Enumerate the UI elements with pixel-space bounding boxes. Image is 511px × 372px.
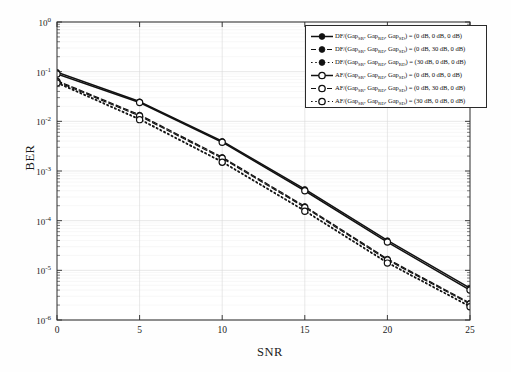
legend-label: AF/(GapSR, GapRD, GapSD) = (0 dB, 0 dB, …	[335, 71, 462, 78]
data-point	[302, 188, 308, 194]
y-tick-label: 100	[17, 16, 51, 28]
y-tick-label: 10-5	[17, 264, 51, 276]
figure-root: BER SNR 0510152025 10010-110-210-310-410…	[0, 0, 511, 372]
x-tick-label: 25	[455, 325, 485, 335]
data-point	[137, 117, 143, 123]
legend-item-4: AF/(GapSR, GapRD, GapSD) = (0 dB, 30 dB,…	[309, 81, 484, 94]
legend-label: AF/(GapSR, GapRD, GapSD) = (30 dB, 0 dB,…	[335, 97, 465, 104]
x-tick-label: 20	[372, 325, 402, 335]
legend-marker-icon	[309, 42, 335, 55]
legend-item-2: DF/(GapSR, GapRD, GapRD) = (30 dB, 0 dB,…	[309, 55, 484, 68]
data-point	[137, 99, 143, 105]
legend-label: DF/(GapSR, GapRD, GapSD) = (0 dB, 0 dB, …	[335, 32, 462, 39]
legend-item-0: DF/(GapSR, GapRD, GapSD) = (0 dB, 0 dB, …	[309, 29, 484, 42]
data-point	[384, 260, 390, 266]
x-axis-label: SNR	[190, 345, 350, 360]
x-tick-label: 10	[207, 325, 237, 335]
legend-marker-icon	[309, 68, 335, 81]
y-tick-label: 10-1	[17, 66, 51, 78]
legend-marker-icon	[309, 81, 335, 94]
legend-marker-icon	[309, 94, 335, 107]
x-tick-label: 15	[290, 325, 320, 335]
legend-label: DF/(GapSR, GapRD, GapRD) = (30 dB, 0 dB,…	[335, 58, 466, 65]
y-tick-label: 10-6	[17, 314, 51, 326]
y-tick-label: 10-3	[17, 165, 51, 177]
legend-item-1: DF/(GapSR, GapRD, GapSD) = (0 dB, 30 dB,…	[309, 42, 484, 55]
x-tick-label: 5	[125, 325, 155, 335]
legend-item-5: AF/(GapSR, GapRD, GapSD) = (30 dB, 0 dB,…	[309, 94, 484, 107]
legend-label: AF/(GapSR, GapRD, GapSD) = (0 dB, 30 dB,…	[335, 84, 465, 91]
data-point	[219, 159, 225, 165]
legend-marker-icon	[309, 55, 335, 68]
data-point	[302, 208, 308, 214]
legend-item-3: AF/(GapSR, GapRD, GapSD) = (0 dB, 0 dB, …	[309, 68, 484, 81]
chart-legend: DF/(GapSR, GapRD, GapSD) = (0 dB, 0 dB, …	[305, 25, 487, 108]
data-point	[219, 139, 225, 145]
legend-marker-icon	[309, 29, 335, 42]
data-point	[384, 239, 390, 245]
x-tick-label: 0	[42, 325, 72, 335]
y-tick-label: 10-4	[17, 215, 51, 227]
y-axis-label: BER	[23, 118, 38, 198]
legend-label: DF/(GapSR, GapRD, GapSD) = (0 dB, 30 dB,…	[335, 45, 465, 52]
y-tick-label: 10-2	[17, 115, 51, 127]
